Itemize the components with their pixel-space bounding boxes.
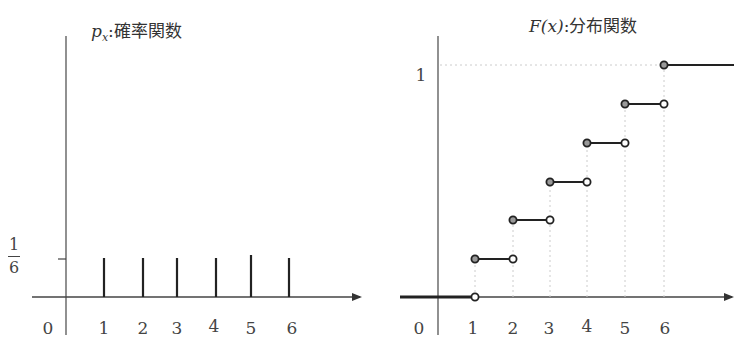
pmf-xtick: 3	[172, 318, 183, 338]
pmf-ytick: 16	[8, 236, 20, 277]
charts-canvas	[0, 0, 741, 359]
cdf-xtick: 3	[544, 318, 555, 338]
cdf-xtick: 1	[468, 318, 479, 338]
pmf-xtick: 1	[99, 318, 110, 338]
pmf-title-text: :確率関数	[108, 21, 182, 41]
pmf-title: px:確率関数	[91, 17, 182, 44]
pmf-xtick: 2	[138, 318, 149, 338]
cdf-origin: 0	[414, 318, 425, 338]
cdf-xtick: 4	[582, 316, 593, 336]
cdf-chart	[400, 36, 734, 335]
pmf-origin: 0	[43, 318, 54, 338]
cdf-xtick: 2	[508, 318, 519, 338]
cdf-title-text: :分布関数	[564, 16, 638, 36]
pmf-xtick: 6	[287, 318, 298, 338]
cdf-xtick: 5	[620, 318, 631, 338]
cdf-xtick: 6	[660, 318, 671, 338]
pmf-chart	[32, 36, 360, 335]
cdf-title-var: F(x)	[529, 16, 564, 36]
pmf-xtick: 4	[209, 316, 220, 336]
pmf-title-var: p	[91, 21, 102, 41]
pmf-xtick: 5	[246, 318, 257, 338]
cdf-ytick: 1	[416, 65, 427, 85]
cdf-title: F(x):分布関数	[529, 12, 637, 37]
